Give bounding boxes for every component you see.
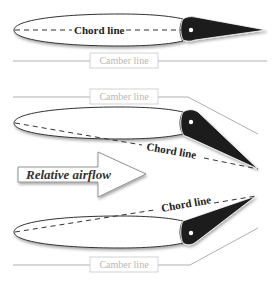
hinge-point	[189, 231, 193, 235]
hinge-point	[189, 120, 193, 124]
chord-line-label: Chord line	[146, 140, 198, 161]
airfoil-body	[14, 216, 183, 248]
camber-line-label: Camber line	[99, 55, 149, 66]
panel-neutral: Chord line Camber line	[13, 14, 267, 68]
airfoil-body	[14, 107, 183, 139]
relative-airflow-label: Relative airflow	[25, 167, 111, 182]
flap	[181, 17, 266, 42]
airfoil-diagram: Chord line Camber line Camber line Chord…	[0, 0, 273, 290]
panel-flap-up: Chord line Camber line	[13, 193, 258, 272]
hinge-point	[189, 28, 193, 32]
panel-flap-down: Camber line Chord line	[13, 89, 258, 169]
relative-airflow-arrow: Relative airflow	[18, 152, 146, 197]
camber-line-label: Camber line	[99, 259, 149, 270]
camber-line-label: Camber line	[99, 91, 149, 102]
chord-line-label: Chord line	[74, 24, 125, 36]
chord-line-label: Chord line	[160, 193, 212, 214]
